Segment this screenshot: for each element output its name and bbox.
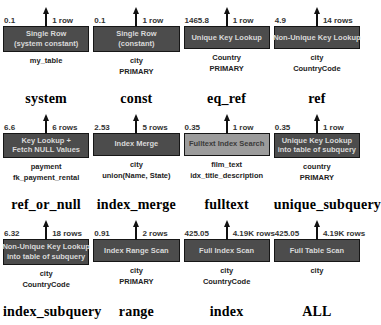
table-name: film_text [184,160,270,169]
cost-value: 0.1 [94,16,105,25]
table-name: city [93,56,179,65]
table-name: city [274,53,360,62]
table-name: city [93,266,179,275]
access-type-label: index_merge [93,197,179,216]
access-type-label: unique_subquery [274,197,360,216]
table-name: country [274,162,360,171]
table-name: city [274,266,360,275]
operation-box: Unique Key Lookup into table of subquery [274,133,360,159]
row-count: 2 rows [142,229,167,238]
up-arrow-icon [133,220,139,240]
key-name: fk_payment_rental [3,173,89,182]
arrow-row: 2.53 5 rows [93,110,179,133]
cost-value: 425.05 [275,229,299,238]
operation-line: into table of subquery [278,145,356,155]
operation-box: Key Lookup + Fetch NULL Values [3,133,89,159]
operation-line: Index Merge [114,139,158,149]
operation-box: Full Table Scan [274,239,360,262]
cell-all: 425.05 4.19K rows Full Table Scan city A… [272,216,362,323]
up-arrow-icon [314,220,320,240]
operation-line: Full Table Scan [290,246,344,256]
row-count: 1 row [142,16,163,25]
access-type-label: range [93,304,179,323]
cell-index: 425.05 4.19K rows Full Index Scan city C… [182,216,272,323]
arrow-row: 0.35 1 row [274,110,360,133]
access-type-label: fulltext [184,197,270,216]
operation-line: Index Range Scan [104,246,169,256]
cell-const: 0.1 1 row Single Row (constant) city PRI… [91,3,181,110]
cost-value: 425.05 [185,229,209,238]
up-arrow-icon [133,7,139,27]
operation-box: Fulltext Index Search [184,133,270,156]
operation-box: Single Row (system constant) [3,26,89,52]
key-name: PRIMARY [184,64,270,73]
table-name: Country [184,53,270,62]
access-type-label: eq_ref [184,91,270,110]
row-count: 1 row [323,123,344,132]
operation-line: Non-Unique Key Lookup [273,33,361,43]
key-name: PRIMARY [93,67,179,76]
access-type-label: ref_or_null [3,197,89,216]
cost-value: 4.9 [275,16,286,25]
up-arrow-icon [43,114,49,134]
operation-line: Single Row [26,29,66,39]
row-count: 6 rows [52,123,77,132]
operation-line: (constant) [118,39,154,49]
cost-value: 6.32 [4,229,20,238]
key-name: PRIMARY [93,277,179,286]
row-count: 5 rows [142,123,167,132]
operation-line: into table of subquery [7,252,85,262]
up-arrow-icon [224,7,230,27]
cost-value: 2.53 [94,123,110,132]
key-name: idx_title_description [184,171,270,180]
table-name: city [184,266,270,275]
cell-ref: 4.9 14 rows Non-Unique Key Lookup city C… [272,3,362,110]
operation-line: Fetch NULL Values [12,145,80,155]
cost-value: 0.1 [4,16,15,25]
cell-eq-ref: 1465.8 1 row Unique Key Lookup Country P… [182,3,272,110]
access-type-label: system [3,91,89,110]
access-type-label: ALL [274,304,360,323]
access-type-label: const [93,91,179,110]
table-name: city [3,269,89,278]
row-count: 4.19K rows [233,229,275,238]
operation-box: Index Merge [93,133,179,156]
cell-index-subquery: 6.32 18 rows Non-Unique Key Lookup into … [1,216,91,323]
key-name: CountryCode [3,280,89,289]
arrow-row: 1465.8 1 row [184,3,270,26]
operation-line: Unique Key Lookup [191,33,261,43]
table-name: payment [3,162,89,171]
cell-fulltext: 0.35 1 row Fulltext Index Search film_te… [182,110,272,217]
table-name: city [93,160,179,169]
up-arrow-icon [314,114,320,134]
table-name: my_table [3,56,89,65]
operation-line: Single Row [116,29,156,39]
cell-system: 0.1 1 row Single Row (system constant) m… [1,3,91,110]
arrow-row: 6.32 18 rows [3,216,89,239]
access-type-label: ref [274,91,360,110]
row-count: 1 row [233,16,254,25]
cost-value: 0.91 [94,229,110,238]
operation-box: Single Row (constant) [93,26,179,52]
operation-box: Non-Unique Key Lookup into table of subq… [3,239,89,265]
key-name: PRIMARY [274,173,360,182]
up-arrow-icon [314,7,320,27]
access-type-label: index [184,304,270,323]
operation-line: Non-Unique Key Lookup [2,242,90,252]
cell-unique-subquery: 0.35 1 row Unique Key Lookup into table … [272,110,362,217]
up-arrow-icon [224,220,230,240]
arrow-row: 425.05 4.19K rows [184,216,270,239]
cost-value: 0.35 [275,123,291,132]
up-arrow-icon [133,114,139,134]
arrow-row: 0.35 1 row [184,110,270,133]
operation-box: Non-Unique Key Lookup [274,26,360,49]
operation-line: Full Index Scan [199,246,254,256]
key-name: CountryCode [274,64,360,73]
key-name: CountryCode [184,277,270,286]
cost-value: 6.6 [4,123,15,132]
row-count: 1 row [233,123,254,132]
cell-ref-or-null: 6.6 6 rows Key Lookup + Fetch NULL Value… [1,110,91,217]
row-count: 14 rows [323,16,353,25]
up-arrow-icon [43,220,49,240]
